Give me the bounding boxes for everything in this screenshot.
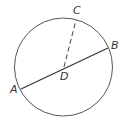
circle	[15, 18, 113, 116]
circle-diagram: A B C D	[0, 0, 124, 127]
segment-dc-dashed	[64, 20, 76, 67]
diagram-canvas: A B C D	[0, 0, 124, 127]
label-point-d: D	[60, 70, 68, 83]
label-point-a: A	[9, 83, 18, 96]
label-point-c: C	[73, 4, 81, 17]
label-point-b: B	[111, 39, 119, 52]
